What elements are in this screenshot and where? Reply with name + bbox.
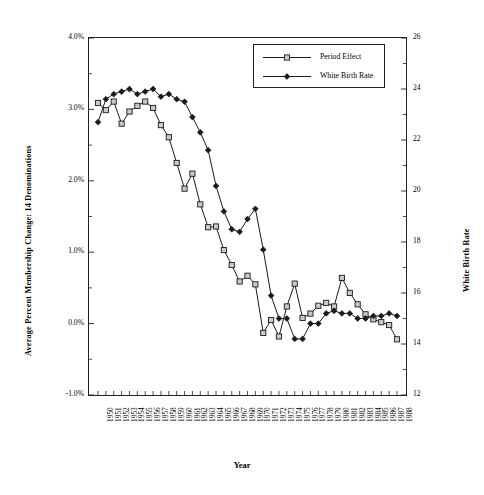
x-axis-tick-label: 1988: [406, 407, 414, 422]
plot-area: [88, 37, 407, 396]
y-axis-left-tick-label: 0.0%: [50, 319, 84, 327]
y-axis-right-tick-label: 24: [413, 84, 437, 92]
legend-label: Period Effect: [320, 52, 361, 61]
y-axis-right-tick-label: 20: [413, 186, 437, 194]
y-axis-left-tick-label: -1.0%: [50, 390, 84, 398]
legend-open-square-icon: [261, 48, 313, 67]
y-axis-left-ticks: -1.0%0.0%1.0%2.0%3.0%4.0%: [46, 0, 84, 495]
chart-canvas: [89, 38, 406, 395]
chart-page: Average Percent Membership Change: 14 De…: [0, 0, 484, 495]
legend-filled-diamond-icon: [261, 67, 313, 86]
x-axis-ticks: 1950195119521953195419551956195719581959…: [88, 400, 407, 446]
y-axis-right-tick-label: 22: [413, 135, 437, 143]
y-axis-right-tick-label: 12: [413, 390, 437, 398]
y-axis-left-tick-label: 4.0%: [50, 33, 84, 41]
legend-item: Period Effect: [254, 48, 386, 67]
y-axis-right-ticks: 1214161820222426: [413, 0, 439, 495]
y-axis-right-tick-label: 16: [413, 288, 437, 296]
y-axis-left-tick-label: 1.0%: [50, 247, 84, 255]
y-axis-right-tick-label: 18: [413, 237, 437, 245]
y-axis-right-title: White Birth Rate: [462, 228, 471, 292]
y-axis-right-tick-label: 14: [413, 339, 437, 347]
legend-label: White Birth Rate: [320, 71, 373, 80]
y-axis-left-title: Average Percent Membership Change: 14 De…: [24, 145, 33, 356]
y-axis-left-tick-label: 2.0%: [50, 176, 84, 184]
series-white-birth-rate: [95, 86, 400, 342]
legend-item: White Birth Rate: [254, 67, 386, 86]
y-axis-left-tick-label: 3.0%: [50, 104, 84, 112]
y-axis-right-tick-label: 26: [413, 33, 437, 41]
chart-legend: Period EffectWhite Birth Rate: [253, 44, 385, 88]
